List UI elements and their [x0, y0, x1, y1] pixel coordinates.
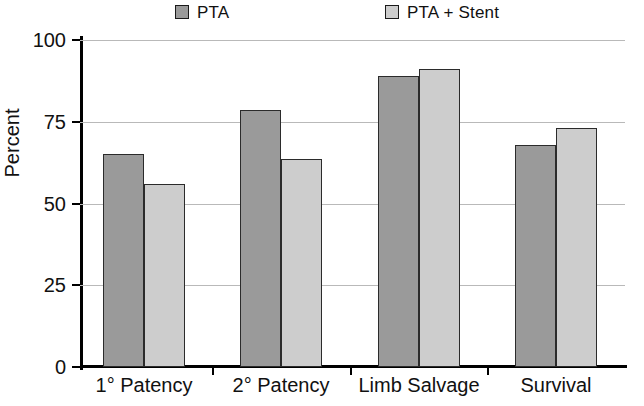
bar-pta-2 [378, 76, 419, 367]
x-category-label-2: Limb Salvage [339, 374, 499, 396]
y-tick-label-75: 75 [12, 112, 66, 132]
legend-item-pta: PTA [175, 2, 229, 22]
legend-swatch-pta [175, 5, 189, 19]
bar-pta-0 [103, 154, 144, 367]
plot-area [80, 40, 625, 367]
bar-pta-stent-2 [419, 69, 460, 367]
legend-swatch-pta-stent [385, 5, 399, 19]
bar-pta-1 [240, 110, 281, 367]
y-tick-100 [72, 39, 80, 41]
x-category-label-3: Survival [476, 374, 636, 396]
y-tick-label-50: 50 [12, 194, 66, 214]
x-category-label-1: 2° Patency [201, 374, 361, 396]
y-tick-label-100: 100 [12, 30, 66, 50]
y-tick-25 [72, 284, 80, 286]
x-category-label-0: 1° Patency [64, 374, 224, 396]
legend-label-pta-stent: PTA + Stent [407, 4, 499, 21]
bar-pta-stent-3 [556, 128, 597, 367]
y-tick-label-25: 25 [12, 275, 66, 295]
legend-label-pta: PTA [197, 4, 229, 21]
legend-item-pta-stent: PTA + Stent [385, 2, 499, 22]
bar-pta-stent-0 [144, 184, 185, 367]
bar-chart: PTA PTA + Stent Percent 0255075100 1° Pa… [0, 0, 644, 406]
y-tick-label-0: 0 [12, 357, 66, 377]
chart-legend: PTA PTA + Stent [0, 0, 644, 28]
bar-pta-3 [515, 145, 556, 367]
gridline-100 [80, 40, 625, 41]
y-tick-75 [72, 121, 80, 123]
y-tick-50 [72, 203, 80, 205]
bar-pta-stent-1 [281, 159, 322, 367]
y-tick-0 [72, 366, 80, 368]
gridline-75 [80, 122, 625, 123]
